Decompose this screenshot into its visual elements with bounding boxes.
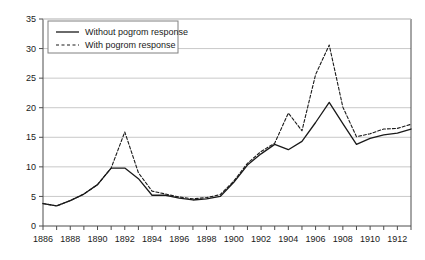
x-tick-label: 1906 [306,234,326,244]
chart-container: 0510152025303518861888189018921894189618… [0,0,425,260]
x-axis-ticks: 1886188818901892189418961898190019021904… [33,226,411,244]
data-series-group [43,45,411,206]
y-tick-label: 25 [26,73,36,83]
x-tick-label: 1886 [33,234,53,244]
y-tick-label: 35 [26,14,36,24]
x-tick-label: 1896 [169,234,189,244]
series-line-1 [43,102,411,206]
x-tick-label: 1910 [360,234,380,244]
x-tick-label: 1902 [251,234,271,244]
y-tick-label: 0 [31,221,36,231]
x-tick-label: 1898 [197,234,217,244]
x-tick-label: 1912 [387,234,407,244]
x-tick-label: 1904 [278,234,298,244]
x-tick-label: 1894 [142,234,162,244]
legend-label-1: Without pogrom response [85,27,188,37]
x-tick-label: 1892 [115,234,135,244]
y-tick-label: 5 [31,192,36,202]
y-tick-label: 20 [26,103,36,113]
legend-label-2: With pogrom response [85,40,176,50]
x-tick-label: 1900 [224,234,244,244]
y-axis-ticks: 05101520253035 [26,14,43,231]
line-chart: 0510152025303518861888189018921894189618… [0,0,425,260]
x-tick-label: 1890 [88,234,108,244]
legend: Without pogrom responseWith pogrom respo… [48,21,188,53]
x-tick-label: 1888 [60,234,80,244]
y-tick-label: 15 [26,132,36,142]
x-tick-label: 1908 [333,234,353,244]
y-tick-label: 30 [26,44,36,54]
series-line-2 [43,45,411,206]
y-tick-label: 10 [26,162,36,172]
